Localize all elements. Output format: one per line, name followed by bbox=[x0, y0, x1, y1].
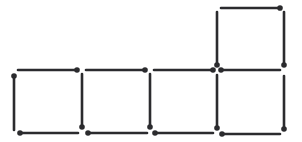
matchstick-head-icon bbox=[214, 125, 220, 131]
matchstick-head-icon bbox=[17, 130, 23, 136]
matchstick-head-icon bbox=[281, 62, 287, 68]
matchstick-head-icon bbox=[214, 62, 220, 68]
matchstick-head-icon bbox=[210, 67, 216, 73]
matchstick-top-2 bbox=[86, 67, 148, 73]
matchstick-upper-top bbox=[221, 5, 283, 11]
matchstick-head-icon bbox=[74, 67, 80, 73]
matchstick-bottom-3 bbox=[152, 130, 213, 136]
matchstick-vert-4 bbox=[214, 75, 220, 131]
matchstick-head-icon bbox=[218, 67, 224, 73]
matchstick-head-icon bbox=[277, 5, 283, 11]
matchstick-head-icon bbox=[85, 130, 91, 136]
matchstick-diagram bbox=[0, 0, 302, 142]
matchstick-top-1 bbox=[18, 67, 80, 73]
matchstick-head-icon bbox=[281, 126, 287, 132]
matchstick-upper-left bbox=[214, 12, 220, 68]
matchstick-head-icon bbox=[11, 73, 17, 79]
matchstick-left-1 bbox=[11, 73, 17, 130]
matchstick-bottom-4 bbox=[219, 131, 280, 137]
matchstick-upper-right bbox=[281, 12, 287, 68]
matchstick-bottom-2 bbox=[85, 130, 147, 136]
matchstick-vert-5 bbox=[281, 76, 287, 132]
matchstick-top-4 bbox=[218, 67, 280, 73]
matchstick-head-icon bbox=[142, 67, 148, 73]
matchstick-head-icon bbox=[219, 131, 225, 137]
matchstick-vert-2 bbox=[79, 74, 85, 130]
matchstick-bottom-1 bbox=[17, 130, 78, 136]
matchstick-vert-3 bbox=[147, 74, 153, 130]
matchstick-head-icon bbox=[152, 130, 158, 136]
matchstick-head-icon bbox=[147, 124, 153, 130]
matchstick-top-3 bbox=[154, 67, 216, 73]
matchstick-head-icon bbox=[79, 124, 85, 130]
